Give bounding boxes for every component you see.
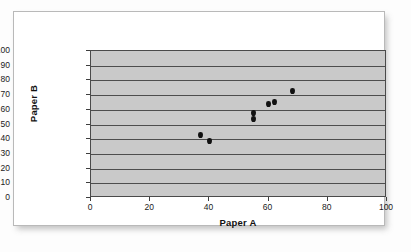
x-tick-label: 40 [188, 202, 228, 212]
data-point [251, 116, 256, 122]
gridline [91, 125, 385, 126]
data-point [207, 138, 212, 144]
x-tick-mark [208, 197, 209, 201]
y-tick-label: 40 [0, 134, 10, 142]
y-tick-mark [86, 50, 90, 51]
x-tick-mark [149, 197, 150, 201]
gridline [91, 95, 385, 96]
y-tick-label: 70 [0, 90, 10, 98]
y-tick-label: 10 [0, 178, 10, 186]
x-axis-title: Paper A [90, 217, 386, 228]
data-point [290, 88, 295, 94]
y-tick-mark [86, 65, 90, 66]
data-point [272, 99, 277, 105]
y-tick-mark [86, 168, 90, 169]
plot-area [90, 50, 386, 197]
y-tick-mark [86, 124, 90, 125]
gridline [91, 169, 385, 170]
y-tick-mark [86, 79, 90, 80]
x-tick-label: 100 [366, 202, 406, 212]
chart-card: 0102030405060708090100 020406080100 Pape… [13, 11, 385, 226]
y-tick-label: 100 [0, 46, 10, 54]
x-tick-mark [327, 197, 328, 201]
x-tick-label: 80 [307, 202, 347, 212]
x-tick-label: 0 [70, 202, 110, 212]
screenshot-root: 0102030405060708090100 020406080100 Pape… [0, 0, 411, 252]
y-tick-mark [86, 138, 90, 139]
data-point [198, 132, 203, 138]
data-point [266, 101, 271, 107]
gridline [91, 80, 385, 81]
y-tick-label: 50 [0, 120, 10, 128]
y-tick-label: 90 [0, 61, 10, 69]
x-tick-label: 60 [248, 202, 288, 212]
y-tick-label: 60 [0, 105, 10, 113]
gridline [91, 139, 385, 140]
y-tick-mark [86, 109, 90, 110]
gridline [91, 66, 385, 67]
gridline [91, 110, 385, 111]
y-axis-title: Paper B [28, 64, 39, 144]
gridline [91, 154, 385, 155]
y-tick-mark [86, 153, 90, 154]
y-tick-label: 20 [0, 164, 10, 172]
y-tick-mark [86, 182, 90, 183]
gridline [91, 183, 385, 184]
y-tick-label: 30 [0, 149, 10, 157]
x-tick-mark [386, 197, 387, 201]
y-tick-mark [86, 94, 90, 95]
x-tick-mark [268, 197, 269, 201]
x-tick-label: 20 [129, 202, 169, 212]
y-tick-label: 80 [0, 75, 10, 83]
x-tick-mark [90, 197, 91, 201]
y-tick-label: 0 [0, 193, 10, 201]
